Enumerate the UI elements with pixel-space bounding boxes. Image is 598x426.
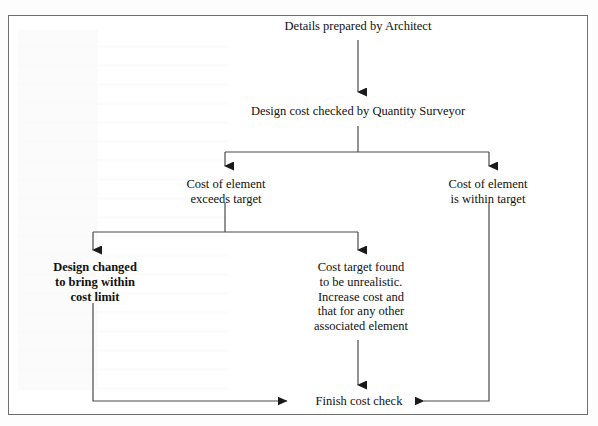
node-cost-target-unrealistic: Cost target found to be unrealistic. Inc… — [291, 260, 431, 334]
node-finish-cost-check: Finish cost check — [298, 394, 420, 409]
flowchart-page: Details prepared by Architect Design cos… — [0, 0, 598, 426]
node-cost-exceeds-target: Cost of element exceeds target — [160, 177, 292, 207]
node-design-changed: Design changed to bring within cost limi… — [28, 260, 162, 304]
node-cost-within-target: Cost of element is within target — [422, 177, 554, 207]
node-design-cost-checked: Design cost checked by Quantity Surveyor — [228, 104, 488, 119]
diagram-frame — [8, 15, 588, 415]
node-details-prepared-by-architect: Details prepared by Architect — [238, 19, 478, 34]
